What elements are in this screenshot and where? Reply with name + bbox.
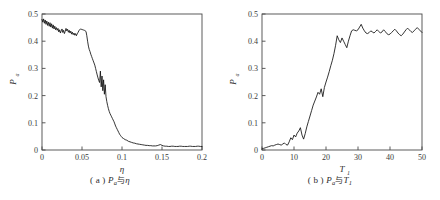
data-series-line — [262, 24, 422, 149]
plot-frame — [262, 14, 422, 150]
data-series-line — [42, 19, 202, 147]
caption-b-variable-sub: 1 — [349, 179, 352, 186]
x-axis-title: T — [339, 164, 345, 174]
x-tick-label: 30 — [354, 153, 362, 162]
y-tick-label: 0.2 — [248, 92, 258, 101]
y-tick-label: 0.3 — [28, 64, 38, 73]
y-tick-label: 0.5 — [28, 10, 38, 19]
x-tick-label: 0.1 — [117, 153, 127, 162]
x-axis-title: η — [120, 164, 125, 174]
y-tick-label: 0.1 — [28, 119, 38, 128]
chart-b-plot: 00.10.20.30.40.501020304050PaT1 — [220, 0, 440, 175]
y-axis-title-symbol: P — [8, 79, 18, 86]
y-axis-title-subscript: a — [14, 74, 20, 77]
caption-b-index: ( b ) — [308, 175, 324, 185]
y-tick-label: 0.3 — [248, 64, 258, 73]
x-tick-label: 0 — [260, 153, 264, 162]
y-axis-title: Pa — [228, 74, 240, 86]
x-tick-label: 0.05 — [75, 153, 89, 162]
x-tick-label: 0.15 — [155, 153, 169, 162]
y-axis-title: Pa — [8, 74, 20, 86]
y-tick-label: 0 — [34, 146, 38, 155]
caption-a-index: ( a ) — [90, 175, 106, 185]
x-tick-label: 0 — [40, 153, 44, 162]
x-tick-label: 10 — [290, 153, 298, 162]
chart-a-plot: 00.10.20.30.40.500.050.10.150.2Paη — [0, 0, 220, 175]
y-tick-label: 0 — [254, 146, 258, 155]
y-tick-label: 0.5 — [248, 10, 258, 19]
y-tick-label: 0.4 — [28, 37, 38, 46]
plot-frame — [42, 14, 202, 150]
caption-b-conjunction: 与 — [335, 176, 343, 185]
x-tick-label: 50 — [418, 153, 426, 162]
x-tick-label: 40 — [386, 153, 394, 162]
chart-panel-b: 00.10.20.30.40.501020304050PaT1 ( b ) Pa… — [220, 0, 440, 200]
figure-root: 00.10.20.30.40.500.050.10.150.2Paη ( a )… — [0, 0, 440, 200]
chart-b-caption: ( b ) Pa与T1 — [220, 174, 440, 186]
caption-a-variable: η — [125, 175, 130, 185]
x-tick-label: 20 — [322, 153, 330, 162]
y-tick-label: 0.2 — [28, 92, 38, 101]
chart-a-caption: ( a ) Pa与η — [0, 174, 220, 186]
y-tick-label: 0.1 — [248, 119, 258, 128]
x-tick-label: 0.2 — [197, 153, 207, 162]
y-tick-label: 0.4 — [248, 37, 258, 46]
y-axis-title-subscript: a — [234, 74, 240, 77]
chart-panel-a: 00.10.20.30.40.500.050.10.150.2Paη ( a )… — [0, 0, 220, 200]
y-axis-title-symbol: P — [228, 79, 238, 86]
